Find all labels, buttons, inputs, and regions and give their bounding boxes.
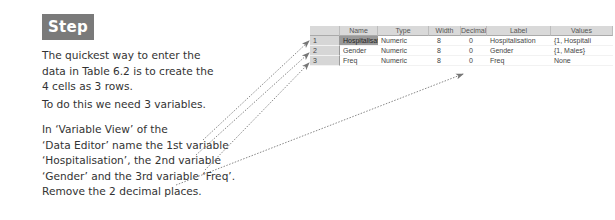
arrow-to-row-2 <box>196 53 309 155</box>
arrow-to-decimals <box>176 74 463 185</box>
arrow-to-row-1 <box>203 41 309 140</box>
arrow-to-row-3 <box>205 63 309 170</box>
callout-arrows <box>0 0 615 220</box>
